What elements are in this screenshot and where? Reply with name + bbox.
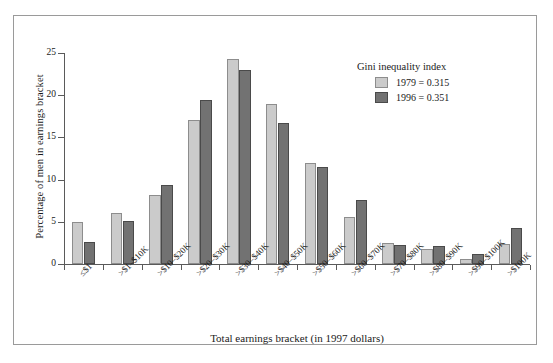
x-axis-tick (336, 265, 337, 270)
bar-1979 (344, 217, 356, 264)
bar-1979 (72, 222, 84, 264)
y-axis-tick (58, 180, 64, 181)
x-axis-tick (103, 265, 104, 270)
legend: Gini inequality index 1979 = 0.315 1996 … (357, 61, 517, 107)
bar-1979 (460, 259, 472, 264)
bar-1979 (266, 104, 278, 264)
bar-1979 (421, 249, 433, 264)
x-axis-tick (142, 265, 143, 270)
legend-title: Gini inequality index (357, 61, 517, 72)
x-axis-tick (258, 265, 259, 270)
bar-1979 (227, 59, 239, 264)
x-axis-tick (219, 265, 220, 270)
y-axis-title: Percentage of men in earnings bracket (34, 51, 45, 262)
bar-1996 (317, 167, 329, 264)
x-axis-tick (452, 265, 453, 270)
x-axis-tick (375, 265, 376, 270)
legend-swatch-1979 (375, 77, 388, 88)
figure: 0510152025 ≤$1>$1–$10K>$10–$20K>$20–$30K… (0, 0, 553, 363)
x-axis-tick (64, 265, 65, 270)
y-axis-tick (58, 137, 64, 138)
x-axis-tick (414, 265, 415, 270)
legend-swatch-1996 (375, 92, 388, 103)
y-axis-tick (58, 222, 64, 223)
bar-1996 (161, 185, 173, 264)
legend-label-1979: 1979 = 0.315 (396, 77, 449, 88)
bar-1996 (278, 123, 290, 264)
y-axis-tick (58, 53, 64, 54)
legend-label-1996: 1996 = 0.351 (396, 92, 449, 103)
legend-item-1996: 1996 = 0.351 (375, 92, 517, 103)
y-axis-tick (58, 95, 64, 96)
x-axis-tick (530, 265, 531, 270)
bar-1979 (111, 213, 123, 264)
x-axis-tick (491, 265, 492, 270)
x-axis-tick (297, 265, 298, 270)
x-axis-tick (181, 265, 182, 270)
bar-1979 (149, 195, 161, 264)
bar-1996 (239, 70, 251, 264)
bar-1996 (200, 100, 212, 264)
y-axis-line (64, 53, 65, 265)
x-axis-title: Total earnings bracket (in 1997 dollars) (64, 332, 530, 344)
figure-frame: 0510152025 ≤$1>$1–$10K>$10–$20K>$20–$30K… (13, 15, 537, 345)
legend-item-1979: 1979 = 0.315 (375, 77, 517, 88)
bar-1979 (188, 120, 200, 264)
